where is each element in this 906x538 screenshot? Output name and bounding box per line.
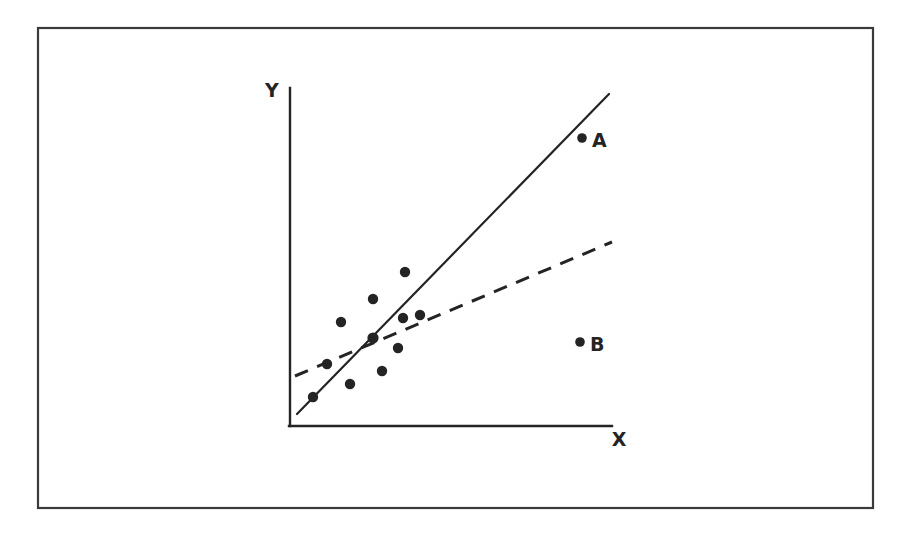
- data-point: [322, 359, 332, 369]
- data-point: [393, 343, 403, 353]
- data-point-a: [577, 133, 587, 143]
- data-point-b: [575, 337, 585, 347]
- y-axis-label: Y: [264, 79, 279, 101]
- x-axis-label: X: [612, 428, 627, 450]
- data-point: [398, 313, 408, 323]
- data-point: [377, 366, 387, 376]
- figure-root: Y X A B: [0, 0, 906, 538]
- data-point: [345, 379, 355, 389]
- data-point: [308, 392, 318, 402]
- data-point: [336, 317, 346, 327]
- data-point: [368, 294, 378, 304]
- scatter-chart: Y X A B: [0, 0, 906, 538]
- data-point-a-label: A: [592, 129, 607, 151]
- data-point: [415, 310, 425, 320]
- figure-background: [0, 0, 906, 538]
- data-point: [400, 267, 410, 277]
- data-point: [367, 332, 378, 343]
- data-point-b-label: B: [590, 333, 604, 355]
